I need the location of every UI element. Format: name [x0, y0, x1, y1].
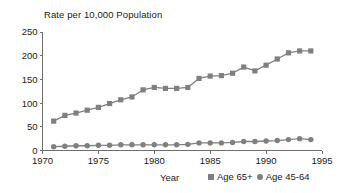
square-data-point	[308, 48, 313, 53]
circle-data-point	[185, 142, 190, 147]
circle-data-point	[85, 143, 90, 148]
circle-data-point	[297, 136, 302, 141]
circle-data-point	[152, 142, 157, 147]
square-data-point	[107, 101, 112, 106]
square-data-point	[264, 63, 269, 68]
circle-data-point	[219, 140, 224, 145]
square-data-point	[286, 50, 291, 55]
circle-data-point	[263, 138, 268, 143]
square-data-point	[152, 85, 157, 90]
x-tick-label: 1995	[311, 155, 332, 166]
square-data-point	[85, 108, 90, 113]
circle-marker-icon	[257, 174, 263, 180]
square-data-point	[96, 105, 101, 110]
x-tick-label: 1980	[144, 155, 165, 166]
circle-data-point	[208, 140, 213, 145]
series-1	[51, 48, 313, 123]
chart-container: Rate per 10,000 Population 0501001502002…	[0, 0, 338, 193]
square-data-point	[129, 94, 134, 99]
square-data-point	[51, 119, 56, 124]
legend-label-age-65-plus: Age 65+	[217, 172, 253, 182]
square-data-point	[185, 85, 190, 90]
square-data-point	[118, 97, 123, 102]
square-data-point	[62, 113, 67, 118]
square-data-point	[141, 87, 146, 92]
series-line	[54, 139, 311, 147]
y-tick-label: 50	[27, 121, 38, 132]
x-tick-label: 1985	[200, 155, 221, 166]
square-data-point	[174, 86, 179, 91]
y-tick-label: 150	[22, 74, 38, 85]
square-data-point	[297, 48, 302, 53]
circle-data-point	[252, 139, 257, 144]
x-tick-label: 1975	[88, 155, 109, 166]
legend-label-age-45-64: Age 45-64	[266, 172, 310, 182]
x-axis-label: Year	[160, 172, 179, 183]
circle-data-point	[129, 142, 134, 147]
square-data-point	[73, 110, 78, 115]
data-series-group	[51, 48, 314, 149]
circle-data-point	[230, 140, 235, 145]
x-tick-labels: 197019751980198519901995	[32, 151, 333, 166]
series-line	[54, 51, 311, 121]
square-data-point	[219, 73, 224, 78]
legend-item-age-65-plus[interactable]: Age 65+	[208, 172, 253, 182]
y-tick-label: 200	[22, 50, 38, 61]
y-tick-labels: 050100150200250	[22, 26, 43, 156]
square-data-point	[275, 56, 280, 61]
square-data-point	[208, 73, 213, 78]
circle-data-point	[62, 144, 67, 149]
square-marker-icon	[208, 174, 214, 180]
square-data-point	[196, 76, 201, 81]
circle-data-point	[96, 143, 101, 148]
circle-data-point	[275, 138, 280, 143]
square-data-point	[230, 71, 235, 76]
circle-data-point	[73, 143, 78, 148]
circle-data-point	[196, 140, 201, 145]
y-axis: 050100150200250	[22, 26, 43, 156]
series-2	[51, 136, 314, 149]
y-tick-label: 250	[22, 26, 38, 37]
circle-data-point	[308, 137, 313, 142]
circle-data-point	[107, 143, 112, 148]
x-tick-label: 1990	[256, 155, 277, 166]
circle-data-point	[140, 142, 145, 147]
circle-data-point	[286, 137, 291, 142]
legend-item-age-45-64[interactable]: Age 45-64	[257, 172, 310, 182]
circle-data-point	[118, 142, 123, 147]
square-data-point	[241, 64, 246, 69]
y-tick-label: 100	[22, 98, 38, 109]
circle-data-point	[174, 142, 179, 147]
plot-area: 050100150200250 197019751980198519901995	[0, 0, 338, 193]
square-data-point	[163, 86, 168, 91]
chart-legend: Age 65+ Age 45-64	[208, 172, 310, 182]
circle-data-point	[51, 144, 56, 149]
x-axis: 197019751980198519901995	[32, 151, 333, 166]
circle-data-point	[241, 139, 246, 144]
square-data-point	[252, 68, 257, 73]
x-tick-label: 1970	[32, 155, 53, 166]
circle-data-point	[163, 142, 168, 147]
